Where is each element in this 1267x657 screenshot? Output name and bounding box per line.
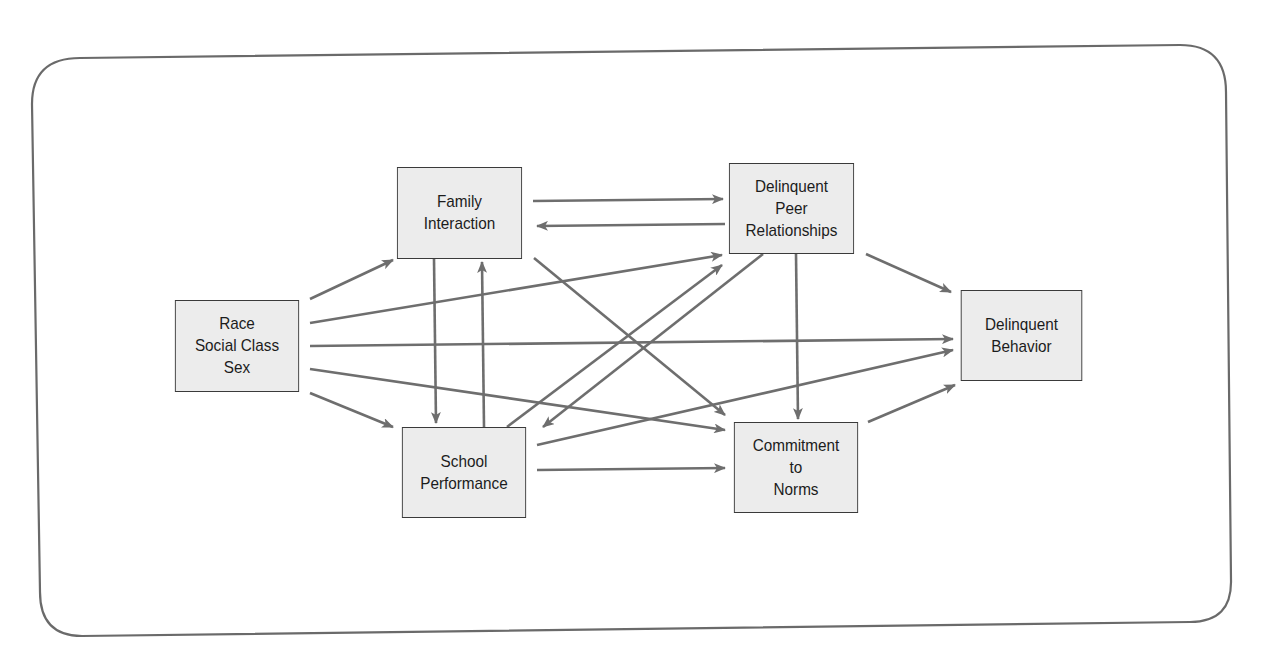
node-label-line: School xyxy=(441,451,488,473)
edge-school-commitment xyxy=(537,468,725,470)
node-school-performance: School Performance xyxy=(402,427,526,518)
node-label-line: Behavior xyxy=(991,336,1051,358)
edge-family-peer xyxy=(533,199,723,201)
edge-school-family xyxy=(482,262,484,427)
edge-race-commitment xyxy=(310,369,725,430)
node-label-line: Family xyxy=(437,191,482,213)
node-commitment-to-norms: Commitment to Norms xyxy=(734,422,858,513)
node-delinquent-peer-relationships: Delinquent Peer Relationships xyxy=(729,163,854,254)
node-label-line: Norms xyxy=(773,479,818,501)
node-label-line: Race xyxy=(219,313,255,335)
edge-family-commitment xyxy=(534,258,725,415)
edge-peer-commitment xyxy=(796,254,798,419)
edge-family-school xyxy=(434,259,436,423)
node-label-line: Sex xyxy=(224,357,250,379)
node-label-line: to xyxy=(790,457,803,479)
node-label-line: Performance xyxy=(420,473,508,495)
node-delinquent-behavior: Delinquent Behavior xyxy=(961,290,1083,381)
node-label-line: Delinquent xyxy=(985,314,1058,336)
node-label-line: Relationships xyxy=(746,220,838,242)
edge-school-peer xyxy=(507,265,722,427)
edge-race-behavior xyxy=(310,339,953,346)
node-label-line: Peer xyxy=(775,198,807,220)
node-family-interaction: Family Interaction xyxy=(397,167,522,259)
node-label-line: Commitment xyxy=(753,435,840,457)
node-label-line: Interaction xyxy=(424,213,495,235)
node-race-social-class-sex: Race Social Class Sex xyxy=(175,300,299,392)
edge-peer-behavior xyxy=(866,254,951,292)
node-label-line: Social Class xyxy=(195,335,279,357)
edge-race-school xyxy=(310,393,393,427)
edge-race-family xyxy=(310,260,393,299)
edge-commitment-behavior xyxy=(868,385,955,422)
edge-peer-family xyxy=(537,224,725,226)
node-label-line: Delinquent xyxy=(755,176,828,198)
